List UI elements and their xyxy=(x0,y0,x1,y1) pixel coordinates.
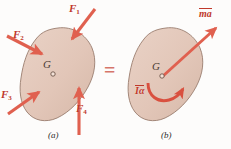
center-of-mass-marker-a xyxy=(51,72,55,76)
figure-graphics xyxy=(0,0,231,149)
panel-a-graphics xyxy=(7,9,95,135)
center-of-mass-marker-b xyxy=(160,74,164,78)
force-arrow-f1 xyxy=(72,9,95,39)
figure-container: F1 F2 F3 F4 G = G ma Iα (a) (b) xyxy=(0,0,231,149)
panel-b-graphics xyxy=(128,28,216,121)
rigid-body-blob-a xyxy=(20,28,95,121)
